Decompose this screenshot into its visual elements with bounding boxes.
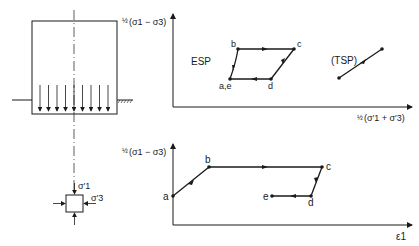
element-square [66, 195, 83, 212]
stress-path-plot: ½ (σ1 − σ3) ½ (σ′1 + σ′3) ESP (TSP) b c … [122, 14, 412, 123]
point-d-label: d [308, 197, 314, 208]
x-axis-label-bottom: ε1 [396, 231, 406, 242]
x-axis-frac: ½ [357, 114, 363, 121]
tsp-start-point [337, 76, 341, 80]
point-e-label: e [263, 191, 269, 202]
sigma3-label: σ′3 [91, 193, 103, 203]
y-axis-frac-bottom: ½ [122, 147, 128, 154]
strain-direction-marks [188, 165, 318, 198]
foundation-sketch: σ′1 σ′3 [12, 10, 133, 225]
tsp-end-point [380, 47, 384, 51]
esp-path [230, 49, 294, 79]
load-arrows [40, 85, 108, 111]
point-a-label: a [163, 191, 169, 202]
strain-points [171, 165, 324, 198]
esp-points [228, 47, 296, 81]
point-ae-label: a,e [219, 81, 232, 91]
y-axis-label-bottom: (σ1 − σ3) [129, 147, 166, 157]
foundation-box [32, 21, 117, 114]
tsp-label: (TSP) [331, 55, 357, 66]
point-b-label: b [231, 39, 236, 49]
esp-direction-marks [232, 47, 285, 81]
esp-label: ESP [191, 56, 211, 67]
x-axis-label: (σ′1 + σ′3) [364, 113, 405, 123]
strain-path [173, 167, 322, 196]
stress-strain-plot: ½ (σ1 − σ3) ε1 a b c d e [122, 144, 412, 242]
point-b-label: b [205, 154, 211, 165]
soil-element: σ′1 σ′3 [53, 181, 103, 225]
point-c-label: c [297, 39, 302, 49]
stress-path-figure: σ′1 σ′3 ½ (σ1 − σ3) ½ (σ′1 + σ′3) ESP (T… [0, 0, 419, 246]
point-c-label: c [326, 161, 331, 172]
sigma1-label: σ′1 [78, 181, 90, 191]
y-axis-frac: ½ [122, 17, 128, 24]
y-axis-label: (σ1 − σ3) [129, 17, 166, 27]
point-d-label: d [268, 81, 273, 91]
